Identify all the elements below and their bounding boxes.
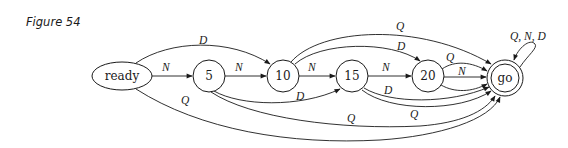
edge-label: N (161, 61, 171, 73)
edge-label: Q (446, 51, 455, 63)
edge-label: N (381, 61, 391, 73)
edge-20-go-d (441, 84, 487, 91)
edge-label: D (198, 34, 208, 46)
edge-label: Q (396, 20, 405, 32)
edge-label: N (457, 65, 467, 77)
node-ready: ready (92, 62, 152, 90)
node-go: go (487, 60, 523, 96)
node-label: go (498, 71, 513, 85)
node-5: 5 (193, 60, 225, 92)
node-20: 20 (412, 60, 444, 92)
node-label: 5 (205, 69, 213, 83)
edge-15-go-q (362, 90, 491, 107)
node-10: 10 (267, 60, 299, 92)
edge-label: D (396, 40, 406, 52)
edge-label: N (307, 61, 317, 73)
edge-label: D (295, 90, 305, 102)
node-label: 15 (344, 69, 359, 83)
state-diagram: ready 5 10 15 20 go N D Q N D Q N D Q N … (0, 0, 568, 148)
edge-label: N (234, 61, 244, 73)
node-15: 15 (336, 60, 368, 92)
edges (136, 34, 536, 140)
edge-label: Q (347, 112, 356, 124)
node-label: 10 (275, 69, 290, 83)
edge-label: D (383, 84, 393, 96)
edge-label: Q (410, 108, 419, 120)
edge-label: Q, N, D (510, 30, 546, 43)
edge-go-self (514, 42, 536, 67)
node-label: ready (105, 69, 140, 83)
node-label: 20 (420, 69, 435, 83)
edge-label: Q (181, 94, 190, 106)
